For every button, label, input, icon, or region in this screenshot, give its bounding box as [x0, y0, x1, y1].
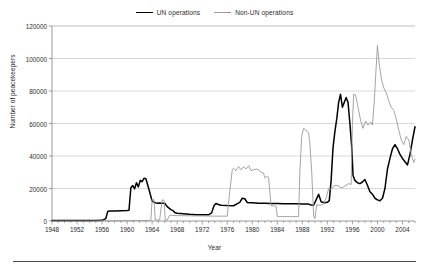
x-tick-label: 1984 [270, 226, 284, 233]
x-tick-label: 1948 [45, 226, 59, 233]
grid-lines [52, 26, 415, 189]
footer-divider [13, 261, 416, 262]
x-tick-label: 1992 [320, 226, 334, 233]
x-tick-label: 1988 [295, 226, 309, 233]
x-tick-label: 1972 [195, 226, 209, 233]
x-axis-title: Year [0, 244, 429, 251]
x-tick-label: 1968 [170, 226, 184, 233]
peacekeeping-chart-figure: UN operations Non-UN operations 12000010… [0, 0, 429, 272]
series-line-un-operations [52, 94, 415, 220]
x-tick-label: 1976 [220, 226, 234, 233]
x-tick-label: 1956 [95, 226, 109, 233]
x-tick-label: 1964 [145, 226, 159, 233]
x-tick-label: 1960 [120, 226, 134, 233]
x-tick-label: 1980 [245, 226, 259, 233]
plot-canvas [0, 0, 429, 272]
x-tick-label: 1952 [70, 226, 84, 233]
x-axis-ticks [52, 221, 415, 225]
x-tick-label: 1996 [345, 226, 359, 233]
x-tick-label: 2000 [370, 226, 384, 233]
series-line-non-un-operations [52, 46, 415, 222]
x-tick-label: 2004 [395, 226, 409, 233]
series-lines [52, 46, 415, 222]
